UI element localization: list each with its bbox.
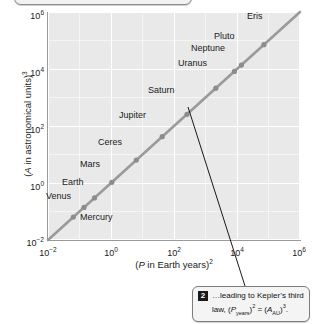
x-axis-title: (P in Earth years)2 [48,258,300,270]
y-axis-title: (A in astronomical units)3 [21,24,33,224]
callout-text: …leading to Kepler’s third law, (Pyears)… [212,291,304,317]
callout-law-open: law, ( [212,305,231,314]
callout-law-p-sub: years [236,309,249,315]
callout-step-badge: 2 [198,291,208,301]
data-point-eris [261,42,266,47]
callout-law-period: . [286,305,288,314]
x-tick-label: 100 [97,245,125,258]
y-title-symbol: A [22,167,33,173]
y-title-open: ( [22,174,33,177]
point-label-venus: Venus [46,192,71,201]
kepler-third-law-figure: 106 104 102 100 10−2 10−2 100 102 104 10… [0,0,316,324]
callout-line-1: …leading to Kepler’s third [212,291,304,300]
point-label-mars: Mars [80,160,100,169]
data-point-venus [81,205,86,210]
point-label-ceres: Ceres [98,138,122,147]
data-point-jupiter [160,134,165,139]
point-label-saturn: Saturn [148,86,175,95]
point-label-earth: Earth [62,178,84,187]
point-label-uranus: Uranus [178,59,207,68]
y-title-exponent: 3 [21,71,28,75]
y-tick-label: 106 [10,8,44,21]
x-title-rest: in Earth years) [145,259,209,270]
data-point-saturn [184,112,189,117]
point-label-jupiter: Jupiter [119,111,146,120]
point-label-mercury: Mercury [80,213,113,222]
callout-line-2: law, (Pyears)2 = (AAU)3. [212,305,288,314]
data-point-neptune [232,69,237,74]
x-title-exponent: 2 [209,258,213,265]
data-point-ceres [134,158,139,163]
data-point-earth [92,195,97,200]
data-point-mars [109,180,114,185]
x-tick-label: 104 [223,245,251,258]
point-label-neptune: Neptune [191,44,225,53]
y-title-rest: in astronomical units) [22,75,33,167]
kepler-law-callout: 2 …leading to Kepler’s third law, (Pyear… [192,286,310,322]
callout-law-a-sub: AU [272,309,280,315]
callout-law-equals: = ( [255,305,267,314]
point-label-pluto: Pluto [214,32,235,41]
x-tick-label: 102 [160,245,188,258]
data-layer [0,0,316,324]
x-tick-label: 10−2 [34,245,62,258]
point-label-eris: Eris [247,12,263,21]
data-point-mercury [71,215,76,220]
data-point-uranus [213,86,218,91]
data-point-pluto [239,63,244,68]
x-tick-label: 106 [285,245,313,258]
